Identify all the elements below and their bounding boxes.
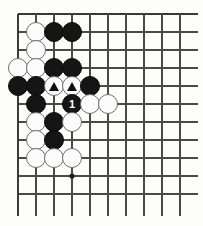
stone-white-c2r8[interactable] [26, 130, 46, 150]
stone-black-c2r5[interactable] [26, 76, 46, 96]
star-points [69, 173, 74, 178]
star-point-1 [69, 173, 74, 178]
stone-white-c2r9[interactable] [26, 148, 46, 168]
stone-white-c5r6[interactable] [80, 94, 100, 114]
stone-black-c4r6[interactable]: 1 [62, 94, 82, 114]
triangle-mark-icon [67, 82, 77, 91]
triangle-mark-icon [49, 82, 59, 91]
stone-white-c2r3[interactable] [26, 40, 46, 60]
stone-white-c4r7[interactable] [62, 112, 82, 132]
stone-black-c3r7[interactable] [44, 112, 64, 132]
stone-black-c5r5[interactable] [80, 76, 100, 96]
stone-white-c4r9[interactable] [62, 148, 82, 168]
stone-black-c4r4[interactable] [62, 58, 82, 78]
stone-white-c2r4[interactable] [26, 58, 46, 78]
stone-white-c2r7[interactable] [26, 112, 46, 132]
stone-move-number: 1 [69, 99, 75, 110]
stone-black-c3r2[interactable] [44, 22, 64, 42]
stone-white-c3r5[interactable] [44, 76, 64, 96]
stone-white-c2r2[interactable] [26, 22, 46, 42]
stone-black-c3r4[interactable] [44, 58, 64, 78]
stone-white-c4r5[interactable] [62, 76, 82, 96]
stone-black-c2r6[interactable] [26, 94, 46, 114]
stone-white-c3r9[interactable] [44, 148, 64, 168]
go-board-diagram: 1 [0, 0, 203, 226]
stone-black-c3r8[interactable] [44, 130, 64, 150]
stone-black-c4r2[interactable] [62, 22, 82, 42]
stone-white-c6r6[interactable] [98, 94, 118, 114]
stone-black-c1r5[interactable] [8, 76, 28, 96]
stone-white-c1r4[interactable] [8, 58, 28, 78]
